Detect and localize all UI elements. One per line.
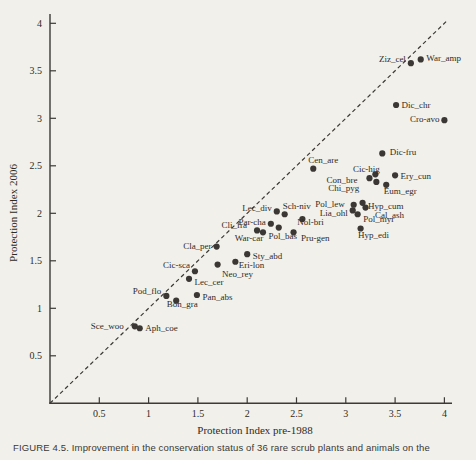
- data-point-Con_bre: [366, 175, 372, 181]
- data-point-label-Sce_woo: Sce_woo: [91, 321, 124, 331]
- data-point-label-Pod_flo: Pod_flo: [133, 286, 162, 296]
- data-point-label-Eum_egr: Eum_egr: [384, 186, 417, 196]
- data-point-label-Cli_fra: Cli_fra: [222, 220, 248, 230]
- y-tick-label: 3: [37, 113, 42, 124]
- data-point-label-Pan_abs: Pan_abs: [202, 292, 232, 302]
- data-point-Dic_chr: [393, 102, 399, 108]
- data-point-label-Cro-avo: Cro-avo: [410, 114, 440, 124]
- x-tick-label: 4: [442, 408, 447, 419]
- figure-page: 0.511.522.533.540.511.522.533.54Ziz_celW…: [0, 0, 476, 460]
- data-point-label-Chi_pyg: Chi_pyg: [328, 183, 360, 193]
- data-point-Cen_are: [310, 166, 316, 172]
- x-axis-title: Protection Index pre-1988: [197, 424, 313, 436]
- data-point-Cic-sca: [192, 268, 198, 274]
- data-point-label-Ziz_cel: Ziz_cel: [379, 54, 406, 64]
- data-point-Neo_rey: [215, 262, 221, 268]
- figure-caption: FIGURE 4.5. Improvement in the conservat…: [13, 442, 474, 453]
- data-point-Pan_abs: [194, 292, 200, 298]
- data-point-Pol_myr: [355, 211, 361, 217]
- data-point-label-Lec_cer: Lec_cer: [195, 277, 224, 287]
- data-point-Dic-fru: [379, 150, 385, 156]
- data-point-Lia_ohl: [350, 207, 356, 213]
- y-tick-label: 2.5: [30, 160, 43, 171]
- x-tick-label: 2: [245, 408, 250, 419]
- data-point-Chi_pyg: [373, 179, 379, 185]
- y-tick-label: 3.5: [30, 65, 43, 76]
- data-point-Lec_div: [274, 208, 280, 214]
- y-axis-title: Protection Index 2006: [7, 164, 19, 262]
- data-point-label-Lec_div: Lec_div: [242, 203, 272, 213]
- x-tick-label: 3: [343, 408, 348, 419]
- data-point-Pru-gen: [290, 229, 296, 235]
- data-point-label-Cic-sca: Cic-sca: [163, 260, 190, 270]
- x-tick-label: 0.5: [93, 408, 106, 419]
- data-point-label-Neo_rey: Neo_rey: [222, 269, 253, 279]
- data-point-Sty_abd: [244, 251, 250, 257]
- y-tick-label: 2: [37, 208, 42, 219]
- data-point-label-Pol_lew: Pol_lew: [315, 199, 345, 209]
- data-point-label-Hyp_edi: Hyp_edi: [358, 230, 389, 240]
- data-point-Ery_cun: [392, 172, 398, 178]
- data-point-label-Cic-hig: Cic-hig: [353, 164, 380, 174]
- plot-dynamic-layer: 0.511.522.533.540.511.522.533.54Ziz_celW…: [30, 14, 462, 419]
- y-tick-label: 1: [37, 303, 42, 314]
- data-point-label-Cla_per: Cla_per: [183, 241, 212, 251]
- data-point-Cal_ash: [362, 205, 368, 211]
- data-point-label-Dic_chr: Dic_chr: [402, 100, 431, 110]
- data-point-Sch-niv: [282, 211, 288, 217]
- x-tick-label: 3.5: [389, 408, 402, 419]
- data-point-Lec_cer: [186, 276, 192, 282]
- x-tick-label: 2.5: [290, 408, 303, 419]
- data-point-Par-cha: [268, 221, 274, 227]
- data-point-label-Pol_myr: Pol_myr: [363, 214, 394, 224]
- y-tick-label: 4: [37, 18, 42, 29]
- data-point-label-Ery_cun: Ery_cun: [401, 171, 432, 181]
- data-point-Pol_lew: [351, 202, 357, 208]
- data-point-Cla_per: [214, 243, 220, 249]
- data-point-label-Nol-bri: Nol-bri: [297, 217, 324, 227]
- data-point-label-Bon_gra: Bon_gra: [167, 299, 198, 309]
- data-point-label-Sch-niv: Sch-niv: [283, 201, 311, 211]
- data-point-label-Aph_coe: Aph_coe: [145, 323, 178, 333]
- data-point-label-Lia_ohl: Lia_ohl: [320, 208, 348, 218]
- data-point-label-War_amp: War_amp: [426, 53, 461, 63]
- y-tick-label: 1.5: [30, 255, 43, 266]
- x-tick-label: 1: [146, 408, 151, 419]
- data-point-Ziz_cel: [408, 60, 414, 66]
- data-point-Cro-avo: [441, 117, 447, 123]
- data-point-Aph_coe: [137, 325, 143, 331]
- data-point-label-Dic-fru: Dic-fru: [390, 147, 417, 157]
- data-point-Eri-lon: [232, 259, 238, 265]
- data-point-label-Cen_are: Cen_are: [308, 155, 338, 165]
- scatter-plot: 0.511.522.533.540.511.522.533.54Ziz_celW…: [0, 0, 476, 442]
- data-point-War_amp: [418, 56, 424, 62]
- data-point-label-War-car: War-car: [235, 233, 264, 243]
- y-tick-label: 0.5: [30, 350, 43, 361]
- data-point-label-Pru-gen: Pru-gen: [301, 233, 330, 243]
- x-tick-label: 1.5: [192, 408, 205, 419]
